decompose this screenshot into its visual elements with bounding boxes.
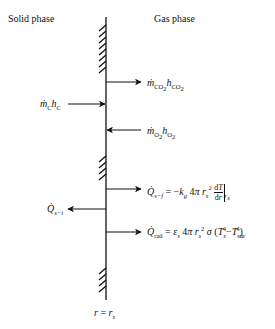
label-q-s-i: Q̇s−i bbox=[47, 204, 63, 214]
label-q-rad: Q̇rad = εs 4π rs2 σ (Ts4−Tsur4) bbox=[147, 227, 243, 237]
hatch-bottom bbox=[99, 268, 106, 292]
gas-phase-title: Gas phase bbox=[154, 14, 195, 24]
solid-phase-title: Solid phase bbox=[8, 14, 54, 24]
wall-position-label: r = rs bbox=[94, 308, 115, 318]
label-q-s-f: Q̇s−f = −kg 4π rs2 dT dr rs bbox=[147, 183, 230, 202]
label-co2-flux: ṁCO2hCO2 bbox=[147, 78, 184, 89]
label-carbon-flux: ṁChC bbox=[40, 99, 61, 109]
hatch-middle bbox=[99, 156, 106, 180]
hatch-top bbox=[99, 25, 106, 73]
diagram-canvas bbox=[0, 0, 275, 329]
label-o2-flux: ṁO2hO2 bbox=[147, 126, 175, 137]
